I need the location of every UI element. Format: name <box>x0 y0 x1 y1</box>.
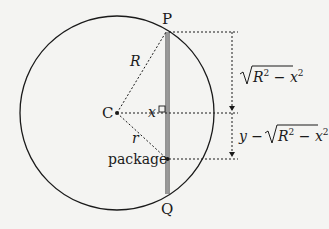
circle-chord-diagram: P Q C R r x package R2 − x2 y − R2 − x2 <box>0 0 329 229</box>
arrow-down-icon <box>229 106 235 111</box>
upper-measure-label: R2 − x2 <box>240 66 304 85</box>
label-P: P <box>162 10 172 28</box>
radius-R-line <box>117 32 166 113</box>
label-package: package <box>108 151 167 167</box>
label-Q: Q <box>161 200 173 218</box>
right-angle-mark <box>159 106 165 112</box>
center-point <box>115 111 119 115</box>
arrow-down-icon <box>229 152 235 157</box>
lower-measure-label: y − R2 − x2 <box>238 125 329 144</box>
label-x: x <box>148 104 156 120</box>
svg-text:R2 − x2: R2 − x2 <box>277 127 329 144</box>
svg-text:y −: y − <box>238 128 263 144</box>
label-C: C <box>102 104 113 122</box>
svg-text:R2 − x2: R2 − x2 <box>252 68 304 85</box>
label-R: R <box>129 53 141 69</box>
